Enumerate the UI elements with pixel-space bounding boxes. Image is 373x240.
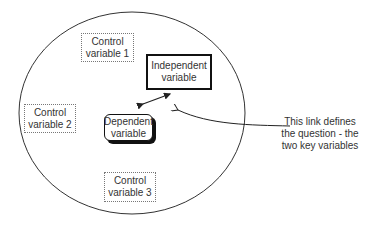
annotation-line1: This link defines <box>280 116 360 128</box>
dependent-variable-box: Dependent variable <box>104 114 153 141</box>
control-2-line1: Control <box>34 107 66 119</box>
control-1-line2: variable 1 <box>86 48 129 60</box>
dependent-line1: Dependent <box>104 116 153 128</box>
independent-variable-box: Independent variable <box>146 54 212 90</box>
dependent-line2: variable <box>111 128 146 140</box>
annotation-text: This link defines the question - the two… <box>280 116 360 152</box>
annotation-line2: the question - the <box>280 128 360 140</box>
independent-line1: Independent <box>151 60 207 72</box>
control-2-line2: variable 2 <box>28 119 71 131</box>
control-3-line2: variable 3 <box>108 187 151 199</box>
link-arrow <box>143 94 170 104</box>
control-variable-1: Control variable 1 <box>81 33 134 62</box>
annotation-line3: two key variables <box>280 140 360 152</box>
control-variable-2: Control variable 2 <box>24 104 76 133</box>
independent-line2: variable <box>161 72 196 84</box>
annotation-curved-arrow <box>178 110 290 126</box>
control-1-line1: Control <box>91 36 123 48</box>
control-3-line1: Control <box>114 175 146 187</box>
control-variable-3: Control variable 3 <box>104 172 156 202</box>
